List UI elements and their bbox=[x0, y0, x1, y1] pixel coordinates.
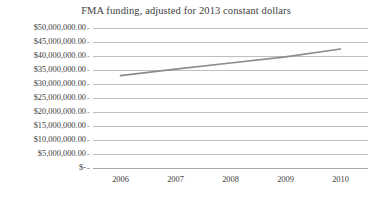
y-axis-tick bbox=[87, 28, 90, 29]
y-axis-tick bbox=[87, 154, 90, 155]
y-axis-tick bbox=[87, 140, 90, 141]
y-axis-tick bbox=[87, 126, 90, 127]
y-axis-tick bbox=[87, 98, 90, 99]
x-axis-tick-label: 2010 bbox=[316, 176, 366, 184]
x-axis-tick-label: 2008 bbox=[206, 176, 256, 184]
y-axis-tick-label: $50,000,000.00 bbox=[34, 24, 86, 32]
y-axis-tick bbox=[87, 84, 90, 85]
y-axis-tick-label: $30,000,000.00 bbox=[34, 80, 86, 88]
y-axis-tick bbox=[87, 168, 90, 169]
y-axis-tick-label: $20,000,000.00 bbox=[34, 108, 86, 116]
y-axis-tick bbox=[87, 70, 90, 71]
y-axis-tick-label: $10,000,000.00 bbox=[34, 136, 86, 144]
y-axis-tick-label: $25,000,000.00 bbox=[34, 94, 86, 102]
x-axis-tick-label: 2006 bbox=[96, 176, 146, 184]
y-axis-tick-label: $5,000,000.00 bbox=[38, 150, 86, 158]
x-axis-tick-label: 2007 bbox=[151, 176, 201, 184]
series-layer bbox=[93, 28, 368, 168]
x-axis-line bbox=[93, 168, 368, 169]
y-axis-tick bbox=[87, 42, 90, 43]
y-axis-tick-label: $15,000,000.00 bbox=[34, 122, 86, 130]
x-axis-tick-label: 2009 bbox=[261, 176, 311, 184]
y-axis-tick-label: $- bbox=[79, 164, 86, 172]
y-axis-tick-label: $40,000,000.00 bbox=[34, 52, 86, 60]
y-axis-tick-label: $35,000,000.00 bbox=[34, 66, 86, 74]
y-axis-tick bbox=[87, 56, 90, 57]
y-axis-labels: $-$5,000,000.00$10,000,000.00$15,000,000… bbox=[0, 0, 90, 198]
data-line-fma-funding bbox=[121, 49, 341, 76]
y-axis-tick bbox=[87, 112, 90, 113]
y-axis-tick-label: $45,000,000.00 bbox=[34, 38, 86, 46]
chart-container: FMA funding, adjusted for 2013 constant … bbox=[0, 0, 372, 198]
